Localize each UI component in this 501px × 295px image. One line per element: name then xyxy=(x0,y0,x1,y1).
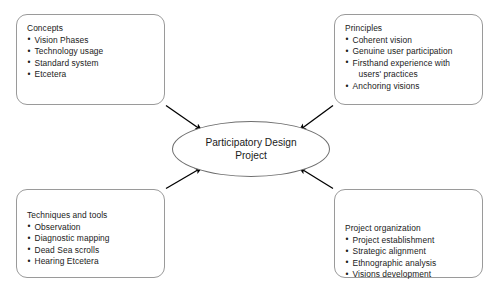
arrow-techniques-to-center xyxy=(166,168,202,189)
list-item: •Dead Sea scrolls xyxy=(27,245,158,257)
node-box-concepts[interactable]: Concepts •Vision Phases •Technology usag… xyxy=(16,14,165,105)
list-item: •Coherent vision xyxy=(345,35,476,47)
list-item: •Genuine user participation xyxy=(345,46,476,58)
bullet-icon: • xyxy=(28,34,31,46)
bullet-icon: • xyxy=(346,269,349,281)
list-item: •Technology usage xyxy=(27,46,158,58)
center-node-label-line1: Participatory Design xyxy=(205,137,296,148)
box-organization-content: Project organization •Project establishm… xyxy=(345,223,476,281)
box-techniques-title: Techniques and tools xyxy=(27,210,158,222)
bullet-icon: • xyxy=(28,233,31,245)
list-item-label: Strategic alignment xyxy=(353,246,426,256)
bullet-icon: • xyxy=(346,57,349,69)
center-node-ellipse[interactable]: Participatory Design Project xyxy=(172,121,330,177)
center-node-label: Participatory Design Project xyxy=(205,136,296,163)
center-node-label-line2: Project xyxy=(235,150,267,161)
list-item: •Strategic alignment xyxy=(345,246,476,258)
list-item: •Project establishment xyxy=(345,235,476,247)
box-techniques-list: •Observation •Diagnostic mapping •Dead S… xyxy=(27,222,158,268)
list-item: •Anchoring visions xyxy=(345,81,476,93)
box-concepts-content: Concepts •Vision Phases •Technology usag… xyxy=(27,23,158,81)
list-item: •Visions development xyxy=(345,269,476,281)
bullet-icon: • xyxy=(346,234,349,246)
list-item-label: Observation xyxy=(35,222,81,232)
bullet-icon: • xyxy=(28,57,31,69)
list-item: •Etcetera xyxy=(27,69,158,81)
bullet-icon: • xyxy=(28,244,31,256)
node-box-organization[interactable]: Project organization •Project establishm… xyxy=(334,189,483,278)
list-item: •Hearing Etcetera xyxy=(27,256,158,268)
list-item-label-continued: users' practices xyxy=(353,69,477,81)
list-item-label: Diagnostic mapping xyxy=(35,233,110,243)
list-item: •Firsthand experience withusers' practic… xyxy=(345,58,476,81)
bullet-icon: • xyxy=(28,221,31,233)
box-organization-list: •Project establishment •Strategic alignm… xyxy=(345,235,476,281)
node-box-principles[interactable]: Principles •Coherent vision •Genuine use… xyxy=(334,14,483,105)
box-principles-list: •Coherent vision •Genuine user participa… xyxy=(345,35,476,93)
bullet-icon: • xyxy=(28,46,31,58)
list-item-label: Hearing Etcetera xyxy=(35,256,99,266)
box-principles-content: Principles •Coherent vision •Genuine use… xyxy=(345,23,476,93)
list-item-label: Standard system xyxy=(35,58,99,68)
list-item-label: Firsthand experience with xyxy=(353,58,451,68)
bullet-icon: • xyxy=(346,34,349,46)
box-principles-title: Principles xyxy=(345,23,476,35)
bullet-icon: • xyxy=(28,69,31,81)
list-item-label: Anchoring visions xyxy=(353,81,420,91)
list-item: •Ethnographic analysis xyxy=(345,258,476,270)
bullet-icon: • xyxy=(346,81,349,93)
node-box-techniques[interactable]: Techniques and tools •Observation •Diagn… xyxy=(16,189,165,278)
list-item-label: Ethnographic analysis xyxy=(353,258,437,268)
list-item-label: Dead Sea scrolls xyxy=(35,245,100,255)
bullet-icon: • xyxy=(346,46,349,58)
list-item: •Standard system xyxy=(27,58,158,70)
arrow-principles-to-center xyxy=(299,106,333,131)
bullet-icon: • xyxy=(28,256,31,268)
box-organization-title: Project organization xyxy=(345,223,476,235)
bullet-icon: • xyxy=(346,257,349,269)
list-item-label: Coherent vision xyxy=(353,35,412,45)
box-concepts-list: •Vision Phases •Technology usage •Standa… xyxy=(27,35,158,81)
list-item: •Diagnostic mapping xyxy=(27,233,158,245)
arrow-concepts-to-center xyxy=(166,106,202,131)
list-item-label: Vision Phases xyxy=(35,35,89,45)
list-item-label: Technology usage xyxy=(35,46,104,56)
list-item-label: Genuine user participation xyxy=(353,46,453,56)
bullet-icon: • xyxy=(346,246,349,258)
box-techniques-content: Techniques and tools •Observation •Diagn… xyxy=(27,210,158,268)
box-concepts-title: Concepts xyxy=(27,23,158,35)
arrow-organization-to-center xyxy=(299,168,333,189)
diagram-canvas: Concepts •Vision Phases •Technology usag… xyxy=(0,0,501,295)
list-item-label: Etcetera xyxy=(35,69,67,79)
list-item: •Observation xyxy=(27,222,158,234)
list-item-label: Visions development xyxy=(353,269,432,279)
list-item-label: Project establishment xyxy=(353,235,435,245)
list-item: •Vision Phases xyxy=(27,35,158,47)
